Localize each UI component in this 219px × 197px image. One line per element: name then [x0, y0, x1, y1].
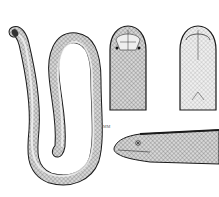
snake-head-ventral: [180, 26, 216, 110]
snake-body-full: [10, 28, 97, 180]
snake-head-dorsal: [110, 26, 146, 110]
snake-head-lateral: [114, 130, 219, 164]
snake-illustration: [0, 0, 219, 197]
scale-label: MM: [103, 124, 111, 129]
